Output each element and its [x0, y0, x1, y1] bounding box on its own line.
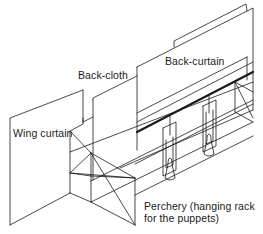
- right-wing-panel: [235, 82, 253, 122]
- hanging-puppet-1: [163, 115, 176, 180]
- stage-line-drawing: [0, 0, 263, 234]
- label-back-cloth: Back-cloth: [78, 69, 128, 81]
- label-back-curtain: Back-curtain: [165, 55, 225, 67]
- label-perchery-line2: for the puppets): [144, 212, 219, 224]
- wing-curtain-panel: [10, 90, 83, 225]
- hanging-puppet-2: [203, 95, 216, 156]
- perchery-bar: [137, 72, 253, 132]
- back-curtain-panel: [137, 4, 253, 150]
- label-perchery-line1: Perchery (hanging rack: [144, 200, 255, 212]
- label-wing-curtain: Wing curtain: [13, 127, 73, 139]
- stage-diagram: Back-curtain Back-cloth Wing curtain Per…: [0, 0, 263, 234]
